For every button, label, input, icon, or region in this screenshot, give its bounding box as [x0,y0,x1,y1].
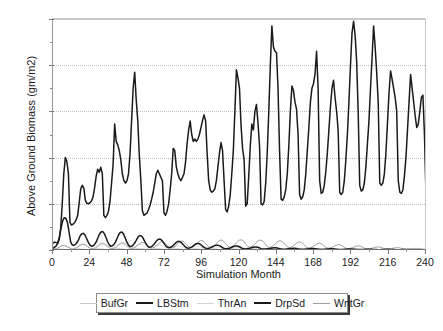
x-tick-minor-84 [183,249,184,252]
x-tick-minor-12 [71,249,72,252]
x-tick-minor-204 [369,249,370,252]
x-tick-label-192: 192 [330,256,370,268]
series-layer [53,19,425,249]
series-lines [53,19,425,249]
chart-container: Above Ground Biomass (gm/m2) 10008006004… [0,0,443,331]
legend-item-wntgr[interactable]: WntGr [309,297,368,309]
legend-label-lbstm: LBStm [157,297,189,309]
x-tick-label-216: 216 [368,256,408,268]
legend-swatch-wntgr [313,303,330,304]
x-tick-minor-180 [332,249,333,252]
x-tick-240 [425,249,426,254]
x-tick-48 [127,249,128,254]
legend-label-drpsd: DrpSd [275,297,305,309]
x-tick-216 [388,249,389,254]
x-tick-96 [201,249,202,254]
x-tick-72 [164,249,165,254]
x-tick-label-144: 144 [256,256,296,268]
x-axis-title: Simulation Month [52,268,425,280]
x-tick-minor-36 [108,249,109,252]
chart-legend: BufGrLBStmThrAnDrpSdWntGr [96,293,348,313]
legend-label-thran: ThrAn [218,297,247,309]
x-tick-120 [239,249,240,254]
x-tick-168 [313,249,314,254]
x-tick-label-0: 0 [32,256,72,268]
series-line-lbstm [53,21,425,243]
x-tick-label-168: 168 [293,256,333,268]
legend-item-bufgr[interactable]: BufGr [76,297,132,309]
x-tick-label-240: 240 [405,256,443,268]
x-tick-label-120: 120 [219,256,259,268]
x-tick-minor-228 [406,249,407,252]
legend-swatch-lbstm [136,302,153,304]
x-tick-minor-132 [257,249,258,252]
legend-item-thran[interactable]: ThrAn [193,297,251,309]
legend-swatch-drpsd [254,302,271,304]
x-tick-label-72: 72 [144,256,184,268]
legend-swatch-bufgr [80,303,97,304]
legend-label-wntgr: WntGr [334,297,364,309]
y-axis-title: Above Ground Biomass (gm/m2) [25,21,37,251]
x-tick-label-24: 24 [69,256,109,268]
legend-item-drpsd[interactable]: DrpSd [250,297,309,309]
x-tick-minor-60 [145,249,146,252]
x-tick-144 [276,249,277,254]
series-line-drpsd [53,218,425,249]
x-tick-minor-108 [220,249,221,252]
legend-label-bufgr: BufGr [101,297,128,309]
x-tick-label-48: 48 [107,256,147,268]
x-tick-24 [89,249,90,254]
x-tick-label-96: 96 [181,256,221,268]
x-tick-0 [52,249,53,254]
plot-area [52,18,425,249]
x-tick-192 [350,249,351,254]
plot-right-border [425,18,426,249]
legend-swatch-thran [197,303,214,304]
legend-item-lbstm[interactable]: LBStm [132,297,193,309]
x-tick-minor-156 [294,249,295,252]
